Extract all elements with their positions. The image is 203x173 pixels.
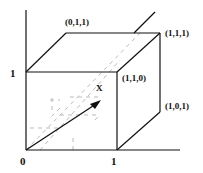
vertex-label-110: (1,1,0)	[122, 74, 146, 83]
axes	[26, 10, 180, 150]
vertex-label-011: (0,1,1)	[65, 18, 89, 27]
z-axis-extension	[134, 12, 155, 33]
arrow-head-icon	[90, 100, 101, 109]
cube-edges	[26, 33, 160, 150]
hidden-edges	[26, 33, 140, 150]
x-tick-label: 1	[111, 156, 117, 167]
vertex-label-101: (1,0,1)	[165, 102, 189, 111]
cube-diagram: (0,1,1) (1,1,1) (1,1,0) (1,0,1) X 1 0 1	[0, 0, 203, 173]
axis-guide-top	[26, 33, 66, 72]
vector-x	[26, 100, 101, 150]
y-tick-label: 1	[10, 68, 16, 79]
vector-label: X	[96, 84, 103, 93]
vertex-label-111: (1,1,1)	[165, 29, 189, 38]
origin-label: 0	[20, 156, 26, 167]
